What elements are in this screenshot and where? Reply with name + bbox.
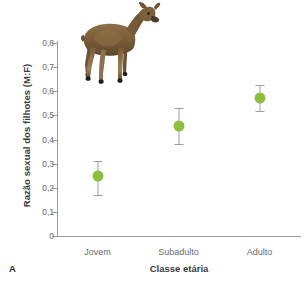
x-axis-line [57, 236, 301, 237]
error-bar-cap-upper [174, 108, 183, 109]
y-tick-label: 0 [49, 231, 54, 241]
y-tick-label: 0,1 [42, 207, 54, 217]
y-tick-label: 0,8 [42, 38, 54, 48]
y-tick-label: 0,7 [42, 62, 54, 72]
error-bar-cap-upper [255, 85, 264, 86]
figure-panel-a: Razão sexual dos filhotes (M:F) 00,10,20… [0, 0, 307, 286]
y-tick-label: 0,2 [42, 183, 54, 193]
error-bar-cap-lower [174, 144, 183, 145]
data-point-jovem [92, 170, 103, 181]
x-tick-label: Subadulto [158, 247, 199, 257]
plot-area: 00,10,20,30,40,50,60,70,8 [57, 43, 300, 236]
error-bar-cap-lower [93, 195, 102, 196]
data-point-adulto [254, 92, 265, 103]
data-point-subadulto [173, 121, 184, 132]
x-tick-label: Jovem [84, 247, 111, 257]
y-tick-label: 0,5 [42, 110, 54, 120]
y-tick-label: 0,3 [42, 159, 54, 169]
error-bar-cap-lower [255, 111, 264, 112]
x-tick-label: Adulto [247, 247, 273, 257]
error-bar-cap-upper [93, 161, 102, 162]
panel-label: A [9, 263, 16, 274]
y-tick-label: 0,4 [42, 135, 54, 145]
x-axis-title: Classe etária [57, 263, 301, 274]
y-tick-label: 0,6 [42, 86, 54, 96]
y-axis-title: Razão sexual dos filhotes (M:F) [21, 36, 32, 236]
